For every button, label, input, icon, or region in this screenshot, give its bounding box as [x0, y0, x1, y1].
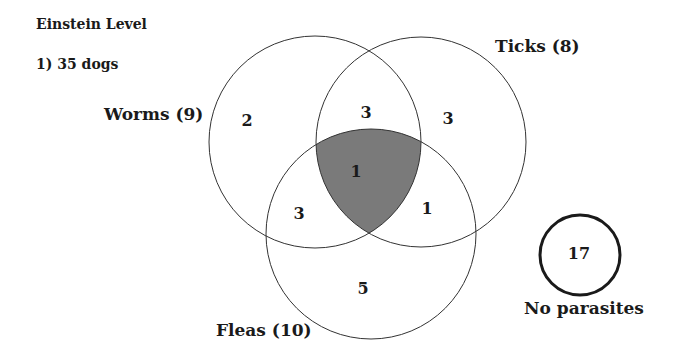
problem-statement: 1) 35 dogs [36, 56, 118, 72]
worms-only-count: 2 [241, 111, 252, 130]
ticks-only-count: 3 [442, 109, 453, 128]
no-parasites-count: 17 [568, 244, 590, 263]
fleas-only-count: 5 [357, 279, 368, 298]
worms-label: Worms (9) [104, 104, 203, 124]
no-parasites-label: No parasites [524, 298, 644, 318]
ticks-fleas-count: 1 [421, 199, 432, 218]
worms-fleas-count: 3 [293, 204, 304, 223]
page-title: Einstein Level [36, 16, 147, 32]
all-three-count: 1 [350, 162, 361, 181]
worms-ticks-count: 3 [360, 103, 371, 122]
ticks-label: Ticks (8) [495, 36, 580, 56]
fleas-label: Fleas (10) [216, 320, 312, 340]
